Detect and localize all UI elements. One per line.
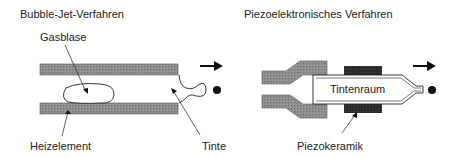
piezo-ceramic-top [344,66,382,75]
printing-methods-diagram: Bubble-Jet-Verfahren Gasblase Heizelemen… [0,0,459,158]
bubble-jet-diagram: Bubble-Jet-Verfahren Gasblase Heizelemen… [20,8,226,152]
bubble-jet-title: Bubble-Jet-Verfahren [20,8,124,20]
label-gasblase: Gasblase [40,31,86,43]
ink-droplet [428,86,436,94]
label-heizelement: Heizelement [30,140,91,152]
arrow-right-icon [200,61,223,71]
label-piezokeramik: Piezokeramik [297,140,364,152]
ink-droplet-forming [179,75,206,103]
label-tintenraum: Tintenraum [330,83,385,95]
piezo-diagram: Piezoelektronisches Verfahren Tintenraum… [244,8,436,152]
arrow-right-icon [413,61,436,71]
piezokeramik-leader [342,115,355,133]
ink-droplet [213,86,221,94]
heating-element [40,103,178,114]
piezo-title: Piezoelektronisches Verfahren [244,8,393,20]
nozzle-wall-top [40,64,178,75]
label-tinte: Tinte [202,140,226,152]
piezo-ceramic-bottom [344,104,382,113]
gas-bubble [63,84,114,104]
heizelement-leader [62,112,68,136]
